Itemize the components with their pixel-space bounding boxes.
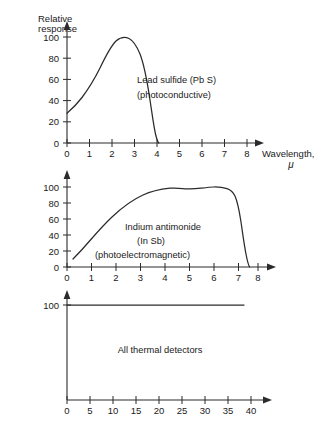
- chart2-y-tick-label-80: 80: [48, 198, 59, 209]
- chart2-x-tick-label-1: 1: [89, 272, 94, 283]
- figure-svg: Relative response 0 20 40 60: [0, 0, 326, 439]
- chart1-x-tick-label-8: 8: [244, 148, 249, 159]
- chart2-x-tick-label-3: 3: [138, 272, 143, 283]
- chart1-annotation-line2: (photoconductive): [137, 90, 211, 100]
- chart3-x-tick-labels: 0 5 10 15 20 25 30 35 40: [64, 405, 256, 416]
- chart1-y-tick-labels: 0 20 40 60 80 100: [43, 32, 59, 149]
- chart1-x-tick-label-7: 7: [222, 148, 227, 159]
- chart1-xlabel: Wavelength,: [262, 148, 314, 159]
- chart1-y-tick-label-0: 0: [54, 138, 59, 149]
- chart2-x-tick-label-8: 8: [255, 272, 260, 283]
- chart-indium-antimonide: 0 20 40 60 80 100 0 1 2: [43, 170, 276, 283]
- chart2-x-tick-label-7: 7: [236, 272, 241, 283]
- chart3-y-axis-arrowhead: [64, 290, 71, 299]
- chart2-y-tick-label-100: 100: [43, 182, 59, 193]
- chart3-x-tick-label-25: 25: [177, 405, 188, 416]
- chart1-x-tick-label-3: 3: [132, 148, 137, 159]
- chart2-x-tick-label-0: 0: [64, 272, 69, 283]
- chart2-annotation-line1: Indium antimonide: [125, 222, 201, 232]
- chart2-x-tick-label-4: 4: [162, 272, 167, 283]
- infrared-detector-response-figure: Relative response 0 20 40 60: [0, 0, 326, 439]
- chart3-x-tick-label-5: 5: [87, 405, 92, 416]
- chart3-x-tick-label-35: 35: [223, 405, 234, 416]
- chart3-x-tick-label-15: 15: [131, 405, 142, 416]
- chart2-annotation-line3: (photoelectromagnetic): [95, 250, 190, 260]
- chart2-y-tick-label-40: 40: [48, 230, 59, 241]
- chart1-x-tick-label-5: 5: [177, 148, 182, 159]
- chart3-x-axis-arrowhead: [263, 397, 272, 404]
- chart2-x-tick-label-2: 2: [113, 272, 118, 283]
- chart1-y-tick-label-60: 60: [48, 74, 59, 85]
- chart2-x-tick-label-5: 5: [187, 272, 192, 283]
- chart2-y-axis-arrowhead: [64, 170, 71, 179]
- chart2-x-tick-label-6: 6: [211, 272, 216, 283]
- chart1-x-tick-label-0: 0: [64, 148, 69, 159]
- chart-all-thermal-detectors: 100 0 5 10 15 20 25 30 35: [43, 290, 272, 416]
- chart1-x-tick-label-1: 1: [87, 148, 92, 159]
- chart2-y-tick-labels: 0 20 40 60 80 100: [43, 182, 59, 273]
- chart1-y-tick-label-20: 20: [48, 116, 59, 127]
- chart2-y-tick-label-20: 20: [48, 246, 59, 257]
- chart1-y-tick-label-100: 100: [43, 32, 59, 43]
- chart2-annotation-line2: (In Sb): [137, 236, 165, 246]
- chart3-x-tick-label-40: 40: [246, 405, 257, 416]
- chart1-x-tick-label-2: 2: [109, 148, 114, 159]
- chart2-x-axis-arrowhead: [267, 264, 276, 271]
- chart1-x-axis-arrowhead: [255, 140, 264, 147]
- chart1-x-tick-labels: 0 1 2 3 4 5 6 7 8: [64, 148, 249, 159]
- chart1-x-tick-label-4: 4: [154, 148, 159, 159]
- chart3-x-tick-label-20: 20: [154, 405, 165, 416]
- chart2-y-tick-label-0: 0: [54, 262, 59, 273]
- chart3-annotation-line1: All thermal detectors: [118, 345, 203, 355]
- chart3-y-tick-label-100: 100: [43, 300, 59, 311]
- chart2-x-tick-labels: 0 1 2 3 4 5 6 7 8: [64, 272, 260, 283]
- chart1-y-tick-label-40: 40: [48, 95, 59, 106]
- chart1-xlabel-unit: μ: [287, 159, 294, 170]
- chart1-y-tick-label-80: 80: [48, 53, 59, 64]
- chart3-x-tick-label-0: 0: [64, 405, 69, 416]
- chart3-x-tick-label-10: 10: [108, 405, 119, 416]
- chart-lead-sulfide: Relative response 0 20 40 60: [38, 13, 314, 170]
- chart1-annotation-line1: Lead sulfide (Pb S): [137, 75, 216, 85]
- chart3-x-tick-label-30: 30: [200, 405, 211, 416]
- chart1-x-tick-label-6: 6: [199, 148, 204, 159]
- chart2-y-tick-label-60: 60: [48, 214, 59, 225]
